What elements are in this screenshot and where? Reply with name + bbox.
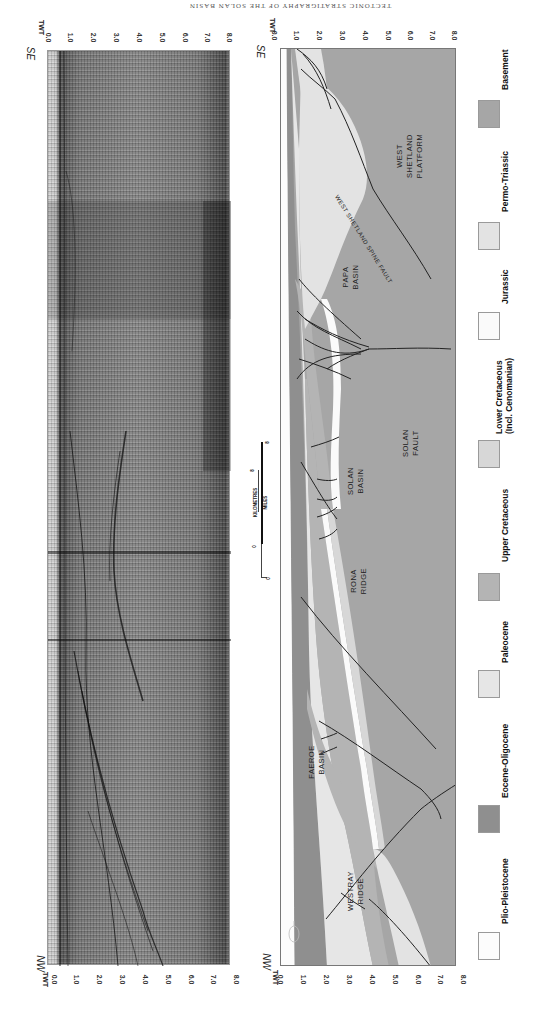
- label-rona-ridge: RONA RIDGE: [349, 561, 369, 601]
- tick-6: 6.0: [188, 972, 195, 988]
- scale-km-bar: [261, 442, 263, 544]
- direction-nw-geology: NW: [261, 953, 272, 970]
- legend-label-lower-cretaceous: Lower Cretaceous: [494, 360, 504, 434]
- legend-label-paleocene: Paleocene: [500, 621, 510, 663]
- tick-0: 0.0: [45, 30, 52, 46]
- tick-6: 6.0: [415, 972, 422, 988]
- tick-8: 8.0: [451, 28, 458, 44]
- legend-swatch-eocene-oligocene: [478, 805, 500, 833]
- tick-2: 2.0: [323, 972, 330, 988]
- geology-layers: [281, 49, 456, 966]
- tick-5: 5.0: [165, 972, 172, 988]
- legend-swatch-plio-pleistocene: [478, 932, 500, 960]
- running-head: TECTONIC STRATIGRAPHY OF THE SOLAN BASIN: [160, 0, 420, 10]
- axis-title-twt: TWT: [42, 972, 49, 987]
- scale-miles-label: MILES: [263, 496, 268, 510]
- tick-1: 1.0: [300, 972, 307, 988]
- tick-4: 4.0: [136, 30, 143, 46]
- legend-swatch-basement: [478, 100, 500, 128]
- tick-0: 0.0: [277, 972, 284, 988]
- direction-se-geology: SE: [255, 45, 266, 58]
- legend-label-plio-pleistocene: Plio-Pleistocene: [500, 858, 510, 924]
- scale-km-label: KILOMETRES: [253, 488, 258, 518]
- legend-label-eocene-oligocene: Eocene-Oligocene: [500, 724, 510, 798]
- tick-1: 1.0: [67, 30, 74, 46]
- label-west-shetland-platform: WEST SHETLAND PLATFORM: [395, 131, 425, 181]
- tick-5: 5.0: [385, 28, 392, 44]
- tick-8: 8.0: [226, 30, 233, 46]
- tick-2: 2.0: [96, 972, 103, 988]
- scale-miles-tick-0: 0: [266, 577, 271, 580]
- tick-1: 1.0: [293, 28, 300, 44]
- legend-swatch-permo-triassic: [478, 222, 500, 250]
- legend-label-jurassic: Jurassic: [500, 270, 510, 305]
- tick-7: 7.0: [210, 972, 217, 988]
- legend-label-basement: Basement: [500, 49, 510, 90]
- tick-3: 3.0: [119, 972, 126, 988]
- legend-label-lower-cretaceous-note: (Incl. Cenomanian): [504, 358, 514, 434]
- tick-3: 3.0: [346, 972, 353, 988]
- label-papa-basin: PAPA BASIN: [341, 257, 361, 297]
- tick-7: 7.0: [429, 28, 436, 44]
- legend-swatch-paleocene: [478, 670, 500, 698]
- tick-4: 4.0: [362, 28, 369, 44]
- tick-4: 4.0: [369, 972, 376, 988]
- legend-swatch-lower-cretaceous: [478, 440, 500, 468]
- scale-km-tick-0: 0: [252, 545, 257, 548]
- tick-6: 6.0: [407, 28, 414, 44]
- tick-2: 2.0: [90, 30, 97, 46]
- legend-label-upper-cretaceous: Upper Cretaceous: [500, 489, 510, 562]
- tick-8: 8.0: [460, 972, 467, 988]
- scale-miles-tick-8: 8: [250, 469, 255, 472]
- direction-se-seismic: SE: [25, 47, 36, 60]
- tick-6: 6.0: [182, 30, 189, 46]
- geological-cross-section: WEST SHETLAND PLATFORM WEST SHETLAND SPI…: [280, 48, 456, 966]
- label-westray-ridge: WESTRAY RIDGE: [346, 866, 366, 916]
- tick-7: 7.0: [204, 30, 211, 46]
- seismic-reflectors: [48, 51, 231, 966]
- legend-swatch-jurassic: [478, 312, 500, 340]
- scale-km-tick-8: 8: [265, 441, 270, 444]
- logo-icon: [287, 919, 301, 947]
- tick-0: 0.0: [51, 972, 58, 988]
- tick-1: 1.0: [73, 972, 80, 988]
- seismic-section: [47, 50, 230, 965]
- tick-7: 7.0: [437, 972, 444, 988]
- tick-4: 4.0: [142, 972, 149, 988]
- tick-3: 3.0: [339, 28, 346, 44]
- scale-bar: KILOMETRES MILES 8 0 8 0: [247, 440, 277, 600]
- tick-8: 8.0: [233, 972, 240, 988]
- tick-0: 0.0: [271, 28, 278, 44]
- label-solan-basin: SOLAN BASIN: [346, 461, 366, 501]
- tick-3: 3.0: [113, 30, 120, 46]
- direction-nw-seismic: NW: [35, 955, 46, 972]
- label-solan-fault: SOLAN FAULT: [401, 423, 421, 463]
- legend-swatch-upper-cretaceous: [478, 573, 500, 601]
- tick-2: 2.0: [316, 28, 323, 44]
- legend-label-permo-triassic: Permo-Triassic: [500, 151, 510, 212]
- tick-5: 5.0: [159, 30, 166, 46]
- label-faeroe-basin: FAEROE BASIN: [307, 742, 327, 782]
- scale-miles-bar: [261, 544, 262, 578]
- tick-5: 5.0: [392, 972, 399, 988]
